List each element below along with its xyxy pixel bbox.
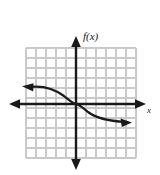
y-axis-down-arrowhead — [71, 159, 81, 170]
y-axis-up-arrowhead — [71, 36, 81, 47]
graph-figure: f(x) x — [0, 0, 160, 175]
curve-left-arrowhead — [22, 83, 34, 91]
coordinate-plane — [0, 0, 160, 175]
x-axis-right-arrowhead — [135, 99, 146, 109]
y-axis-label: f(x) — [83, 31, 98, 42]
x-axis-left-arrowhead — [9, 99, 20, 109]
x-axis-label: x — [147, 106, 151, 115]
